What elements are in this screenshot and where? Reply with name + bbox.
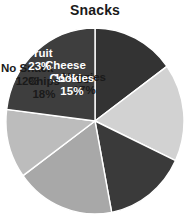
pie-slice-fruit[interactable] [7, 28, 95, 121]
chart-title: Snacks [0, 2, 190, 18]
pie-slice-group [6, 28, 184, 214]
pie-plot-area: Cheese15%Veggies17%Cookies15%Chips18%No … [5, 27, 185, 215]
pie-chart-figure: Snacks Cheese15%Veggies17%Cookies15%Chip… [0, 0, 190, 220]
pie-svg [5, 27, 185, 215]
